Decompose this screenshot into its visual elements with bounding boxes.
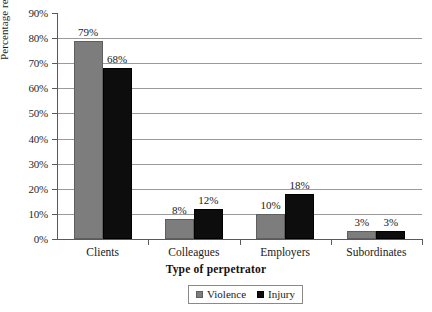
x-axis-title: Type of perpetrator: [0, 263, 432, 275]
legend-swatch-violence-icon: [196, 291, 203, 298]
x-axis-category-label-clients: Clients: [53, 246, 153, 259]
x-axis-category-label-subordinates: Subordinates: [326, 246, 426, 259]
bar-colleagues-violence: [165, 219, 194, 239]
x-axis-category-label-colleagues: Colleagues: [144, 246, 244, 259]
legend: Violence Injury: [188, 285, 303, 304]
y-axis-tick-label: 50%: [4, 108, 48, 119]
y-axis-tick-label: 30%: [4, 159, 48, 170]
x-axis-tick: [240, 239, 241, 245]
legend-swatch-injury-icon: [257, 291, 264, 298]
bar-value-label: 79%: [66, 27, 111, 38]
x-axis-category-label-employers: Employers: [235, 246, 335, 259]
legend-label-violence: Violence: [207, 288, 246, 300]
bar-value-label: 18%: [277, 180, 322, 191]
bar-value-label: 3%: [368, 217, 413, 228]
bar-employers-violence: [256, 214, 285, 239]
y-axis-tick-label: 60%: [4, 83, 48, 94]
bar-value-label: 12%: [186, 195, 231, 206]
y-axis-tick-label: 90%: [4, 8, 48, 19]
bar-chart: Percentage reporting 0%10%20%30%40%50%60…: [0, 0, 432, 312]
y-axis-tick-label: 20%: [4, 184, 48, 195]
bar-clients-injury: [103, 68, 132, 239]
bar-value-label: 8%: [157, 205, 202, 216]
x-axis-tick: [148, 239, 149, 245]
bar-value-label: 10%: [248, 200, 293, 211]
y-axis-tick-label: 70%: [4, 58, 48, 69]
legend-label-injury: Injury: [268, 288, 295, 300]
x-axis-tick: [331, 239, 332, 245]
x-axis-tick-end: [422, 239, 423, 245]
legend-item-injury[interactable]: Injury: [257, 288, 295, 300]
bar-subordinates-injury: [376, 231, 405, 239]
bar-clients-violence: [74, 41, 103, 239]
y-axis-tick-label: 80%: [4, 33, 48, 44]
bar-value-label: 68%: [95, 54, 140, 65]
legend-item-violence[interactable]: Violence: [196, 288, 246, 300]
bar-subordinates-violence: [347, 231, 376, 239]
plot-area: [57, 13, 422, 239]
y-axis-tick-label: 40%: [4, 134, 48, 145]
y-axis-tick-label: 10%: [4, 209, 48, 220]
y-axis-tick-label: 0%: [4, 234, 48, 245]
